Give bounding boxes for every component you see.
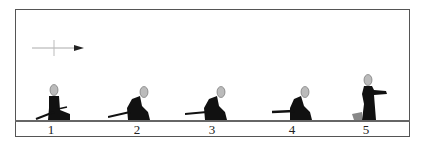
frame-label-2: 2 xyxy=(127,122,147,138)
frame-label-4: 4 xyxy=(282,122,302,138)
figure-pose-1 xyxy=(34,84,80,122)
figure-pose-3 xyxy=(185,86,233,122)
figure-pose-5 xyxy=(350,74,396,122)
direction-arrow-icon xyxy=(30,38,86,58)
frame-label-1: 1 xyxy=(41,122,61,138)
figure-pose-4 xyxy=(272,86,320,122)
figure-pose-2 xyxy=(108,86,156,122)
frame-label-3: 3 xyxy=(202,122,222,138)
frame-label-5: 5 xyxy=(356,122,376,138)
